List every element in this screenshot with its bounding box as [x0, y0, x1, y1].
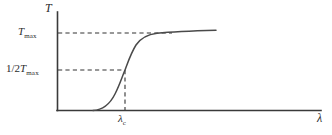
tick-label-half-prefix: 1/2	[6, 62, 20, 74]
tick-label-half-tmax-subscript: max	[26, 69, 39, 77]
x-axis-label: λ	[317, 112, 322, 124]
y-axis-label: T	[45, 2, 52, 14]
tick-label-tmax-subscript: max	[24, 32, 37, 40]
tick-label-tmax: Tmax	[18, 26, 37, 37]
tick-label-lambda-c-subscript: c	[123, 119, 126, 127]
transmission-curve-figure: T λ Tmax 1/2Tmax λc	[0, 0, 332, 135]
tick-label-half-tmax: 1/2Tmax	[6, 63, 39, 74]
plot-canvas	[0, 0, 332, 135]
tick-label-lambda-c: λc	[118, 113, 126, 124]
